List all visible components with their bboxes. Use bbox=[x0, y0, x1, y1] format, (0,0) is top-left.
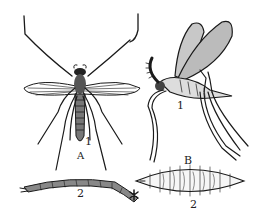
insect-illustration: 1 A 1 B 2 2 bbox=[0, 0, 260, 218]
label-b-adult: 1 bbox=[177, 100, 184, 111]
label-b-larva: 2 bbox=[190, 199, 197, 210]
label-a-adult: 1 bbox=[85, 136, 92, 147]
illustration-canvas bbox=[0, 0, 260, 218]
label-panel-b: B bbox=[184, 155, 192, 166]
label-a-larva: 2 bbox=[77, 188, 84, 199]
label-panel-a: A bbox=[77, 151, 84, 161]
fly-b-lateral bbox=[130, 14, 248, 162]
larva-b bbox=[136, 165, 244, 196]
fly-a-dorsal bbox=[24, 16, 140, 170]
